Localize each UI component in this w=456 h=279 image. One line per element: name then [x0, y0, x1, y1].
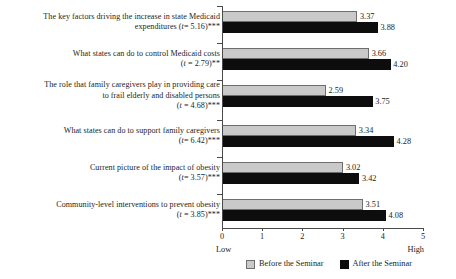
- x-axis-line: [222, 228, 423, 229]
- bar-after-seminar: [222, 22, 378, 33]
- bar-after-seminar: [222, 136, 394, 147]
- x-axis-tick-label: 2: [292, 232, 312, 242]
- category-label: The key factors driving the increase in …: [6, 12, 220, 33]
- category-label-line: (t = 3.85)***: [6, 210, 220, 220]
- category-label-line: The key factors driving the increase in …: [6, 12, 220, 22]
- bar-before-seminar: [222, 48, 369, 59]
- bar-before-seminar: [222, 11, 357, 22]
- bar-before-seminar: [222, 125, 356, 136]
- bar-value-label: 4.20: [393, 59, 408, 70]
- legend-label-after: After the Seminar: [353, 259, 412, 269]
- bar-after-seminar: [222, 96, 373, 107]
- bar-value-label: 3.75: [375, 96, 390, 107]
- plot-area: The key factors driving the increase in …: [0, 0, 456, 279]
- bar-value-label: 2.59: [329, 85, 344, 96]
- bar-before-seminar: [222, 162, 343, 173]
- bar-value-label: 3.02: [346, 162, 361, 173]
- bar-value-label: 3.66: [372, 48, 387, 59]
- category-label-line: (t = 2.79)**: [6, 59, 220, 69]
- bar-value-label: 4.08: [389, 210, 404, 221]
- category-label-line: What states can do to control Medicaid c…: [6, 49, 220, 59]
- category-label-line: (t= 3.57)***: [6, 173, 220, 183]
- bar-before-seminar: [222, 199, 363, 210]
- category-label-line: What states can do to support family car…: [6, 126, 220, 136]
- category-label-line: Current picture of the impact of obesity: [6, 163, 220, 173]
- bar-value-label: 3.34: [359, 125, 374, 136]
- category-label: What states can do to control Medicaid c…: [6, 49, 220, 70]
- legend-swatch-before-icon: [246, 260, 255, 269]
- category-label: Community-level interventions to prevent…: [6, 200, 220, 221]
- x-axis-tick: [302, 228, 303, 231]
- bar-chart: The key factors driving the increase in …: [0, 0, 456, 279]
- y-axis-line: [222, 6, 223, 228]
- bar-after-seminar: [222, 59, 391, 70]
- x-axis-tick: [383, 228, 384, 231]
- bar-after-seminar: [222, 210, 386, 221]
- axis-low-label: Low: [216, 245, 231, 255]
- bar-value-label: 3.51: [366, 199, 381, 210]
- bar-value-label: 3.37: [360, 11, 375, 22]
- bar-before-seminar: [222, 85, 326, 96]
- x-axis-tick: [343, 228, 344, 231]
- category-label-line: expenditures (t= 5.16)***: [6, 22, 220, 32]
- x-axis-tick-label: 1: [252, 232, 272, 242]
- legend-item-before: Before the Seminar: [246, 259, 324, 269]
- x-axis-tick-label: 0: [212, 232, 232, 242]
- x-axis-tick: [222, 228, 223, 231]
- category-label-line: to frail elderly and disabled persons: [6, 91, 220, 101]
- x-axis-tick-label: 5: [413, 232, 433, 242]
- bar-value-label: 4.28: [397, 136, 412, 147]
- bar-after-seminar: [222, 173, 359, 184]
- x-axis-tick-label: 3: [333, 232, 353, 242]
- axis-high-label: High: [400, 245, 424, 255]
- category-label-line: (t= 6.42)***: [6, 136, 220, 146]
- legend-label-before: Before the Seminar: [259, 259, 324, 269]
- category-label-line: (t = 4.68)***: [6, 101, 220, 111]
- category-label: What states can do to support family car…: [6, 126, 220, 147]
- chart-legend: Before the Seminar After the Seminar: [246, 259, 412, 269]
- category-label: The role that family caregivers play in …: [6, 80, 220, 111]
- x-axis-tick: [423, 228, 424, 231]
- x-axis-tick: [262, 228, 263, 231]
- legend-swatch-after-icon: [340, 260, 349, 269]
- category-label-line: The role that family caregivers play in …: [6, 80, 220, 90]
- legend-item-after: After the Seminar: [340, 259, 412, 269]
- category-label: Current picture of the impact of obesity…: [6, 163, 220, 184]
- x-axis-tick-label: 4: [373, 232, 393, 242]
- bar-value-label: 3.88: [380, 22, 395, 33]
- bar-value-label: 3.42: [362, 173, 377, 184]
- category-label-line: Community-level interventions to prevent…: [6, 200, 220, 210]
